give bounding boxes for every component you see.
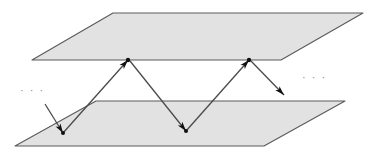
bounce-point-lower-1 xyxy=(61,131,65,135)
bounce-point-upper-1 xyxy=(126,58,130,62)
bounce-point-lower-2 xyxy=(184,129,188,133)
bounce-point-upper-2 xyxy=(247,58,251,62)
ellipsis-left-label: · · · xyxy=(20,85,45,96)
ray-diagram-figure: · · · · · · xyxy=(0,0,375,159)
ellipsis-right-label: · · · xyxy=(302,72,327,83)
top-plane xyxy=(32,13,363,60)
